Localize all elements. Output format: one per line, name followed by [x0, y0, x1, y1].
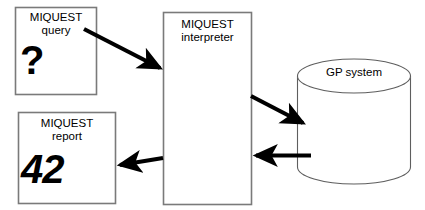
node-miquest-report-glyph: 42 [21, 149, 64, 189]
node-miquest-query-label-line1: MIQUEST [15, 11, 97, 24]
diagram-canvas: MIQUEST query ? MIQUEST interpreter GP s… [0, 0, 425, 210]
node-gp-system-label: GP system [300, 66, 408, 79]
node-miquest-query-label-line2: query [15, 24, 97, 37]
node-miquest-report-label-line2: report [18, 130, 116, 143]
edge-interpreter-to-gp [251, 96, 303, 123]
node-miquest-query-label: MIQUEST query [15, 11, 97, 37]
node-miquest-report-label-line1: MIQUEST [18, 117, 116, 130]
node-miquest-interpreter-label-line1: MIQUEST [163, 18, 252, 31]
node-miquest-query-glyph: ? [20, 40, 43, 80]
node-miquest-report-label: MIQUEST report [18, 117, 116, 143]
node-miquest-interpreter-label: MIQUEST interpreter [163, 18, 252, 44]
node-miquest-interpreter-label-line2: interpreter [163, 31, 252, 44]
node-gp-system-label-line1: GP system [300, 66, 408, 79]
edge-interpreter-to-report [120, 158, 163, 165]
